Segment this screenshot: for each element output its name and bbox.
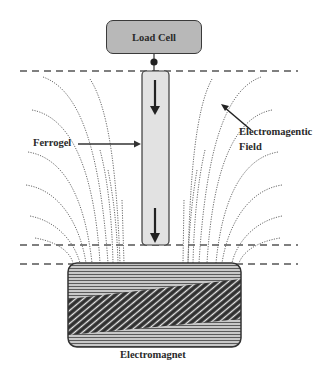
diagram-canvas: Load Cell Ferrogel Electromagentic Field… — [0, 0, 332, 379]
ferrogel-label: Ferrogel — [33, 137, 71, 148]
load-cell-label: Load Cell — [132, 32, 176, 43]
ferrogel-pointer-arrow — [78, 141, 141, 148]
field-label-line1: Electromagentic — [239, 126, 312, 137]
diagram-svg — [0, 0, 332, 379]
load-cell-box: Load Cell — [106, 20, 202, 54]
connector-knob — [150, 58, 157, 65]
field-label-line2: Field — [239, 141, 262, 152]
electromagnet-label: Electromagnet — [120, 349, 186, 360]
electromagnet-block — [68, 263, 241, 347]
